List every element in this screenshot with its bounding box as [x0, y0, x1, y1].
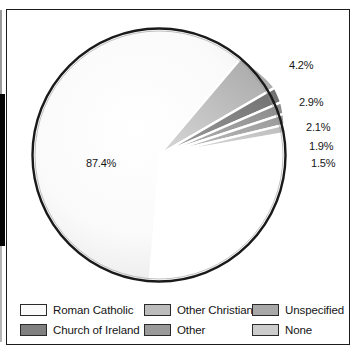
legend-item-none[interactable]: None: [252, 321, 338, 338]
scan-edge-artifact: [0, 94, 5, 246]
legend-item-unspecified[interactable]: Unspecified: [252, 301, 338, 318]
legend-item-roman-catholic[interactable]: Roman Catholic: [20, 301, 144, 318]
chart-legend: Roman Catholic Other Christian Unspecifi…: [20, 299, 338, 343]
legend-row: Roman Catholic Other Christian Unspecifi…: [20, 301, 338, 318]
pie-label-other: 2.1%: [306, 121, 330, 133]
pie-label-unspecified: 1.9%: [309, 140, 333, 152]
pie-label-other-christian: 4.2%: [289, 59, 313, 71]
pie-label-roman-catholic: 87.4%: [86, 157, 116, 169]
chart-screenshot: 87.4% 4.2% 2.9% 2.1% 1.9% 1.5% Roman Cat…: [0, 0, 359, 364]
pie-label-church-of-ireland: 2.9%: [299, 96, 323, 108]
pie-chart-svg: [6, 9, 350, 293]
legend-item-church-of-ireland[interactable]: Church of Ireland: [20, 321, 144, 338]
legend-swatch-icon: [144, 324, 171, 336]
legend-label: Roman Catholic: [53, 304, 133, 316]
legend-swatch-icon: [252, 324, 279, 336]
legend-label: Other Christian: [177, 304, 253, 316]
scan-edge-artifact-top: [0, 10, 2, 94]
legend-swatch-icon: [20, 304, 47, 316]
legend-label: Church of Ireland: [53, 324, 140, 336]
legend-item-other-christian[interactable]: Other Christian: [144, 301, 252, 318]
pie-label-none: 1.5%: [311, 157, 335, 169]
legend-swatch-icon: [20, 324, 47, 336]
legend-label: Unspecified: [285, 304, 344, 316]
legend-label: None: [285, 324, 312, 336]
scan-edge-artifact-bottom: [0, 246, 2, 342]
legend-item-other[interactable]: Other: [144, 321, 252, 338]
legend-label: Other: [177, 324, 205, 336]
legend-swatch-icon: [252, 304, 279, 316]
pie-chart: 87.4% 4.2% 2.9% 2.1% 1.9% 1.5%: [6, 9, 350, 293]
legend-swatch-icon: [144, 304, 171, 316]
legend-row: Church of Ireland Other None: [20, 321, 338, 338]
